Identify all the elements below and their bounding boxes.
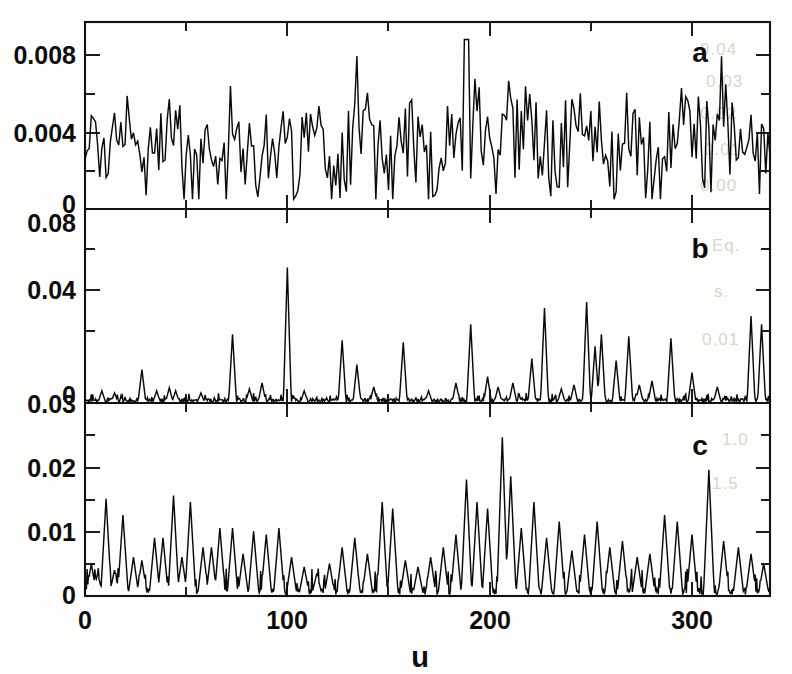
y-tick-label-b-2: 0.08 (27, 209, 76, 237)
y-tick-label-a-2: 0.008 (13, 41, 76, 69)
x-axis-title: u (411, 641, 429, 673)
x-tick-label-300: 300 (671, 606, 713, 634)
panel-b-x-ticks (186, 209, 692, 403)
panel-a: 0.008 0.004 0 (13, 22, 770, 218)
panel-b-y-axis: 0.08 0.04 0 (27, 209, 100, 409)
y-tick-label-b-1: 0.04 (27, 276, 76, 304)
panel-label-a: a (692, 37, 708, 68)
y-tick-label-c-3: 0.03 (27, 390, 76, 418)
y-tick-label-c-1: 0.01 (27, 518, 76, 546)
x-axis-labels: 0 100 200 300 u (78, 606, 713, 673)
data-trace-c (85, 437, 770, 594)
panel-c-x-ticks (186, 403, 692, 596)
panel-a-y-axis: 0.008 0.004 0 (13, 41, 100, 218)
panel-b-right-ticks (756, 249, 770, 331)
chart-outer-frame (85, 22, 770, 596)
panel-c-right-ticks (756, 435, 770, 564)
data-trace-b (85, 268, 770, 403)
x-tick-label-100: 100 (266, 606, 308, 634)
y-tick-label-c-2: 0.02 (27, 454, 76, 482)
y-tick-label-a-1: 0.004 (13, 119, 76, 147)
panel-label-b: b (691, 233, 708, 264)
data-trace-a (85, 40, 770, 200)
x-tick-label-200: 200 (469, 606, 511, 634)
x-tick-label-0: 0 (78, 606, 92, 634)
panel-b: 0.08 0.04 0 (27, 209, 770, 409)
panel-c: 0.03 0.02 0.01 0 (27, 390, 770, 609)
y-tick-label-c-0: 0 (62, 581, 76, 609)
figure-root: 0.040.030.020.010.00Eq.s.0.011.01.5 0.00… (0, 0, 792, 674)
panel-label-c: c (692, 430, 708, 461)
three-panel-line-chart: 0.008 0.004 0 (0, 0, 792, 674)
